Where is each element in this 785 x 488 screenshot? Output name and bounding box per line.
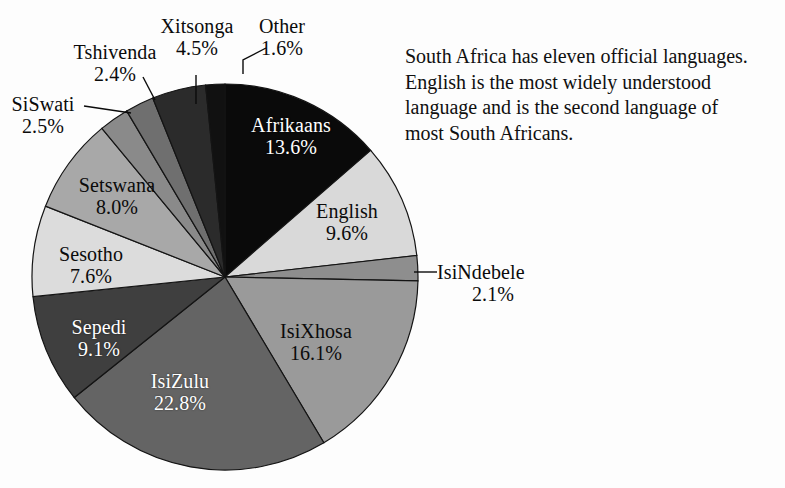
slice-label-tshivenda-value: 2.4% — [59, 63, 171, 85]
slice-label-sesotho: Sesotho 7.6% — [41, 243, 141, 288]
slice-label-setswana-name: Setswana — [58, 174, 176, 196]
slice-label-other-name: Other — [246, 15, 318, 37]
slice-label-afrikaans-name: Afrikaans — [232, 114, 350, 136]
leader-line-siswati — [84, 106, 131, 113]
slice-label-setswana-value: 8.0% — [58, 196, 176, 218]
slice-label-sesotho-value: 7.6% — [41, 265, 141, 287]
slice-label-afrikaans: Afrikaans 13.6% — [232, 114, 350, 159]
slice-label-siswati-name: SiSwati — [2, 93, 84, 115]
slice-label-xitsonga: Xitsonga 4.5% — [145, 15, 249, 60]
slice-label-siswati-value: 2.5% — [2, 115, 84, 137]
annotation-note-line-1: South Africa has eleven official languag… — [405, 44, 755, 70]
slice-label-other-value: 1.6% — [246, 37, 318, 59]
slice-label-afrikaans-value: 13.6% — [232, 136, 350, 158]
slice-label-sepedi-name: Sepedi — [53, 316, 145, 338]
slice-label-sesotho-name: Sesotho — [41, 243, 141, 265]
annotation-note-line-4: most South Africans. — [405, 121, 755, 147]
slice-label-isixhosa-value: 16.1% — [262, 342, 370, 364]
annotation-note-line-3: language and is the second language of — [405, 95, 755, 121]
slice-label-english-name: English — [301, 200, 393, 222]
slice-label-isixhosa-name: IsiXhosa — [262, 320, 370, 342]
slice-label-setswana: Setswana 8.0% — [58, 174, 176, 219]
slice-label-isizulu: IsiZulu 22.8% — [132, 370, 228, 415]
slice-label-xitsonga-value: 4.5% — [145, 37, 249, 59]
slice-label-other: Other 1.6% — [246, 15, 318, 60]
slice-label-siswati: SiSwati 2.5% — [2, 93, 84, 138]
slice-label-sepedi-value: 9.1% — [53, 338, 145, 360]
slice-label-isixhosa: IsiXhosa 16.1% — [262, 320, 370, 365]
slice-label-english: English 9.6% — [301, 200, 393, 245]
slice-label-isindebele-value: 2.1% — [437, 283, 549, 305]
slice-label-sepedi: Sepedi 9.1% — [53, 316, 145, 361]
slice-label-english-value: 9.6% — [301, 222, 393, 244]
slice-label-isizulu-value: 22.8% — [132, 392, 228, 414]
slice-label-isindebele: IsiNdebele 2.1% — [437, 261, 569, 306]
slice-label-isizulu-name: IsiZulu — [132, 370, 228, 392]
annotation-note: South Africa has eleven official languag… — [405, 44, 755, 146]
annotation-note-line-2: English is the most widely understood — [405, 70, 755, 96]
slice-label-isindebele-name: IsiNdebele — [437, 261, 569, 283]
pie-chart-figure: Afrikaans 13.6% English 9.6% IsiNdebele … — [0, 0, 785, 488]
slice-label-xitsonga-name: Xitsonga — [145, 15, 249, 37]
